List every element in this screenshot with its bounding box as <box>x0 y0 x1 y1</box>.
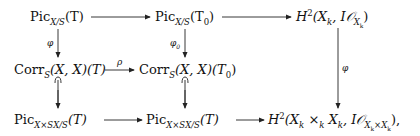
node-h2-xk-xk: H2(Xk ×k Xk, I𝒪Xk×Xk), <box>268 112 400 128</box>
x-text: X <box>324 112 337 127</box>
label-rho: ρ <box>117 57 122 67</box>
node-corr-s-t0: CorrS(X, X)(T0) <box>139 62 236 78</box>
paren-close: ) <box>209 9 214 24</box>
arg-x-x-t: (X, X)(T) <box>50 62 106 77</box>
paren-close: ) <box>363 9 368 24</box>
paren-close: ) <box>231 62 236 77</box>
h-text: H <box>268 112 279 127</box>
corr-text: Corr <box>14 62 44 77</box>
label-phi0: φ0 <box>170 38 180 50</box>
open-x: (X <box>313 9 327 24</box>
node-pic-x-s-t: PicX/S(T) <box>30 9 84 25</box>
sub-x-x-s: X×SX/S <box>166 120 200 130</box>
label-phi: φ <box>47 38 53 48</box>
sub-zero: 0 <box>176 43 180 50</box>
open-x: (X <box>285 112 299 127</box>
node-pic-xx-s-t-2: PicX×SX/S(T) <box>146 112 219 128</box>
node-pic-x-s-t0: PicX/S(T0) <box>155 9 214 25</box>
node-h2-xk: H2(Xk, I𝒪Xk) <box>296 9 368 25</box>
paren-close-comma: ), <box>391 112 400 127</box>
node-corr-s-t: CorrS(X, X)(T) <box>14 62 106 78</box>
arg-t: (T) <box>68 112 87 127</box>
sub-x-s: X/S <box>50 17 65 27</box>
pic-text: Pic <box>146 112 166 127</box>
arg-t: (T) <box>200 112 219 127</box>
pic-text: Pic <box>30 9 50 24</box>
arg-x-x-t: (X, X)(T <box>175 62 226 77</box>
times: × <box>304 112 319 127</box>
corr-text: Corr <box>139 62 169 77</box>
label-phi-right: φ <box>342 63 348 73</box>
arg-t: (T) <box>65 9 84 24</box>
pic-text: Pic <box>14 112 34 127</box>
sub-times-x: ×X <box>374 120 387 130</box>
ideal-o: , I𝒪 <box>332 9 353 24</box>
h-text: H <box>296 9 307 24</box>
pic-text: Pic <box>155 9 175 24</box>
node-pic-xx-s-t: PicX×SX/S(T) <box>14 112 87 128</box>
ideal-o: , I𝒪 <box>343 112 364 127</box>
arg-t: (T <box>190 9 204 24</box>
sub-x-x-s: X×SX/S <box>34 120 68 130</box>
sub-x-s: X/S <box>175 17 190 27</box>
